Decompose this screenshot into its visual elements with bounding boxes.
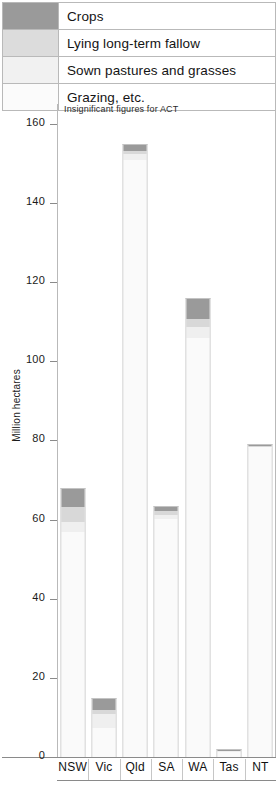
- bar-segment-lying-long-term-fallow: [186, 319, 209, 327]
- bar-slot-nsw: [57, 104, 88, 757]
- x-axis-divider: [213, 759, 214, 780]
- bar-segment-grazing-etc: [155, 519, 178, 758]
- bar-qld[interactable]: [123, 144, 148, 757]
- x-axis-underline: [57, 780, 276, 781]
- y-axis-tick-label: 80: [32, 432, 45, 444]
- bar-tas[interactable]: [217, 749, 242, 757]
- x-axis-divider: [120, 759, 121, 780]
- bar-segment-sown-pastures-and-grasses: [61, 522, 84, 532]
- y-axis-tick-label: 120: [26, 274, 45, 286]
- bar-wa[interactable]: [185, 298, 210, 757]
- y-axis-tick-mark: [50, 520, 57, 521]
- bar-segment-lying-long-term-fallow: [61, 507, 84, 523]
- y-axis-tick-mark: [50, 361, 57, 362]
- bar-segment-crops: [92, 699, 115, 711]
- bar-segment-grazing-etc: [186, 338, 209, 757]
- bar-sa[interactable]: [154, 506, 179, 757]
- bar-slot-tas: [213, 104, 244, 757]
- legend-label-crops: Crops: [59, 3, 275, 29]
- bar-slot-sa: [151, 104, 182, 757]
- y-axis-tick-mark: [50, 678, 57, 679]
- legend-label-fallow: Lying long-term fallow: [59, 30, 275, 56]
- legend-item-sown-pastures: Sown pastures and grasses: [3, 57, 275, 84]
- bar-segment-crops: [186, 299, 209, 319]
- y-axis-tick-label: 20: [32, 670, 45, 682]
- legend-swatch-sown-pastures: [3, 57, 59, 83]
- x-axis-divider: [182, 759, 183, 780]
- legend-label-sown-pastures: Sown pastures and grasses: [59, 57, 275, 83]
- bar-segment-grazing-etc: [249, 447, 272, 757]
- bar-slot-wa: [182, 104, 213, 757]
- legend-item-crops: Crops: [3, 3, 275, 30]
- legend-item-fallow: Lying long-term fallow: [3, 30, 275, 57]
- x-axis: NSWVicQldSAWATasNT: [57, 759, 276, 781]
- bar-segment-grazing-etc: [92, 728, 115, 757]
- legend-swatch-crops: [3, 3, 59, 29]
- bar-segment-crops: [61, 489, 84, 507]
- bar-slot-nt: [245, 104, 276, 757]
- bar-segment-grazing-etc: [61, 532, 84, 757]
- x-axis-divider: [245, 759, 246, 780]
- bar-segment-sown-pastures-and-grasses: [92, 714, 115, 728]
- y-axis-tick-label: 140: [26, 195, 45, 207]
- legend-swatch-grazing: [3, 84, 59, 110]
- y-axis-tick-mark: [50, 203, 57, 204]
- y-axis-tick-mark: [50, 282, 57, 283]
- bar-segment-sown-pastures-and-grasses: [186, 327, 209, 339]
- x-axis-label-wa: WA: [182, 760, 213, 774]
- y-axis-tick-label: 100: [26, 353, 45, 365]
- bar-nsw[interactable]: [60, 488, 85, 757]
- bar-slot-vic: [88, 104, 119, 757]
- y-axis-tick-mark: [50, 757, 57, 758]
- bar-series-group: [57, 104, 276, 757]
- y-axis-tick-label: 160: [26, 116, 45, 128]
- x-axis-divider: [151, 759, 152, 780]
- y-axis-tick-label: 60: [32, 512, 45, 524]
- x-axis-label-nt: NT: [245, 760, 276, 774]
- x-axis-label-qld: Qld: [120, 760, 151, 774]
- bar-segment-grazing-etc: [124, 160, 147, 757]
- y-axis-tick-label: 0: [39, 749, 45, 761]
- y-axis-tick-mark: [50, 599, 57, 600]
- y-axis-tick-mark: [50, 440, 57, 441]
- chart-figure: Crops Lying long-term fallow Sown pastur…: [0, 0, 278, 787]
- x-axis-label-sa: SA: [151, 760, 182, 774]
- chart-legend: Crops Lying long-term fallow Sown pastur…: [2, 2, 276, 111]
- y-axis-tick-label: 40: [32, 591, 45, 603]
- bar-slot-qld: [120, 104, 151, 757]
- bar-segment-crops: [124, 145, 147, 152]
- legend-swatch-fallow: [3, 30, 59, 56]
- bar-nt[interactable]: [248, 444, 273, 757]
- x-axis-label-tas: Tas: [213, 760, 244, 774]
- x-axis-divider: [88, 759, 89, 780]
- bar-vic[interactable]: [91, 698, 116, 757]
- bar-segment-grazing-etc: [218, 752, 241, 757]
- y-axis-tick-mark: [50, 124, 57, 125]
- x-axis-label-nsw: NSW: [57, 760, 88, 774]
- x-axis-label-vic: Vic: [88, 760, 119, 774]
- y-axis-title: Million hectares: [11, 346, 22, 466]
